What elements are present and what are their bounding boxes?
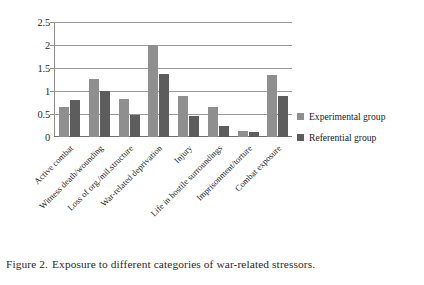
bar-experimental — [119, 99, 129, 137]
figure-container: 00.511.522.5 Active combatWitness death/… — [0, 0, 424, 285]
legend-label: Experimental group — [309, 111, 385, 122]
bar-series-layer — [54, 22, 292, 137]
bar-referential — [189, 116, 199, 137]
chart-legend: Experimental groupReferential group — [297, 111, 421, 153]
x-category-label: Injury — [172, 143, 194, 165]
bar-referential — [130, 115, 140, 137]
bar-group — [206, 22, 236, 137]
figure-caption: Figure 2.Exposure to different categorie… — [6, 258, 418, 270]
y-tick-label: 2.5 — [37, 17, 50, 28]
y-axis-tick-labels: 00.511.522.5 — [20, 12, 50, 144]
bar-referential — [159, 74, 169, 137]
bar-referential — [70, 100, 80, 137]
figure-number: Figure 2. — [6, 258, 48, 270]
figure-caption-text: Exposure to different categories of war-… — [52, 258, 315, 270]
bar-group — [265, 22, 295, 137]
y-tick-label: 1.5 — [37, 63, 50, 74]
bar-group — [176, 22, 206, 137]
y-tick-label: 0.5 — [37, 109, 50, 120]
bar-experimental — [178, 96, 188, 137]
bar-experimental — [148, 45, 158, 137]
bar-group — [146, 22, 176, 137]
bar-group — [57, 22, 87, 137]
bar-group — [87, 22, 117, 137]
bar-referential — [219, 126, 229, 138]
legend-item: Referential group — [297, 132, 421, 143]
bar-group — [117, 22, 147, 137]
legend-label: Referential group — [309, 132, 376, 143]
legend-item: Experimental group — [297, 111, 421, 122]
bar-group — [236, 22, 266, 137]
legend-swatch-icon — [297, 134, 304, 141]
chart-plot-area: 00.511.522.5 Active combatWitness death/… — [0, 0, 424, 240]
bar-experimental — [89, 79, 99, 137]
bar-experimental — [208, 107, 218, 137]
legend-swatch-icon — [297, 113, 304, 120]
bar-referential — [278, 96, 288, 137]
bar-referential — [100, 91, 110, 137]
bar-experimental — [59, 107, 69, 137]
bar-experimental — [267, 75, 277, 137]
